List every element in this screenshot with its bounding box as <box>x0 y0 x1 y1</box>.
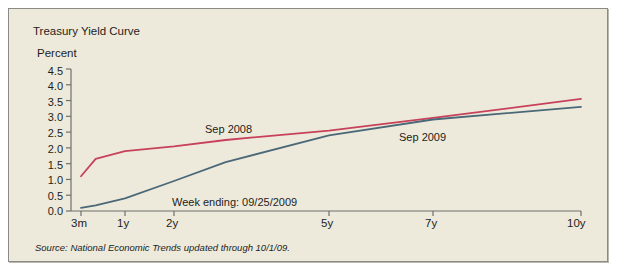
series-label-sep-2009: Sep 2009 <box>399 131 446 143</box>
source-suffix: updated through 10/1/09. <box>184 242 290 253</box>
x-axis-ticks <box>81 211 581 216</box>
source-publication: National Economic Trends <box>70 242 181 253</box>
week-ending-annotation: Week ending: 09/25/2009 <box>172 196 297 208</box>
y-tick-label: 1.5 <box>37 159 63 171</box>
y-tick-label: 2.0 <box>37 143 63 155</box>
series-line-sep-2009 <box>81 107 581 208</box>
series-label-sep-2008: Sep 2008 <box>205 123 252 135</box>
chart-figure: Treasury Yield Curve Percent 4.5 4.0 3.5… <box>8 8 608 262</box>
series-line-sep-2008 <box>81 99 581 176</box>
x-tick-label-10y: 10y <box>567 217 586 229</box>
y-axis-ticks <box>66 69 71 211</box>
source-note: Source: National Economic Trends updated… <box>35 242 290 253</box>
x-tick-label-5y: 5y <box>321 217 333 229</box>
source-prefix: Source: <box>35 242 68 253</box>
x-tick-label-3m: 3m <box>71 217 87 229</box>
x-tick-label-1y: 1y <box>117 217 129 229</box>
x-tick-label-7y: 7y <box>425 217 437 229</box>
x-tick-label-2y: 2y <box>166 217 178 229</box>
plot-area <box>9 9 609 263</box>
y-tick-label: 4.5 <box>37 65 63 77</box>
y-tick-label: 3.5 <box>37 96 63 108</box>
y-tick-label: 1.0 <box>37 174 63 186</box>
y-tick-label: 3.0 <box>37 111 63 123</box>
series-lines <box>81 99 581 208</box>
y-tick-label: 0.0 <box>37 205 63 217</box>
y-tick-label: 2.5 <box>37 127 63 139</box>
y-tick-label: 0.5 <box>37 190 63 202</box>
y-tick-label: 4.0 <box>37 80 63 92</box>
